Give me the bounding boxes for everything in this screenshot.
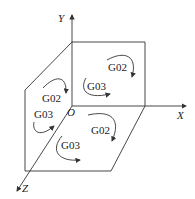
- xy-plane: [72, 42, 145, 106]
- yz-plane: [25, 42, 72, 171]
- origin-label: O: [67, 106, 75, 118]
- x-axis-label: X: [176, 109, 185, 121]
- yz-g03-arc-icon: [34, 122, 54, 133]
- coordinate-plane-diagram: Y X Z O G02 G03 G02 G03 G02 G03: [0, 0, 195, 199]
- z-axis-label: Z: [22, 182, 29, 194]
- yz-g02-arc-icon: [43, 79, 66, 93]
- yz-g03-label: G03: [34, 108, 53, 120]
- y-axis-label: Y: [58, 12, 66, 24]
- yz-g02-label: G02: [42, 92, 61, 104]
- xy-g02-label: G02: [108, 61, 127, 73]
- xy-g03-label: G03: [87, 80, 106, 92]
- xz-g02-label: G02: [91, 124, 110, 136]
- xz-g03-label: G03: [61, 139, 80, 151]
